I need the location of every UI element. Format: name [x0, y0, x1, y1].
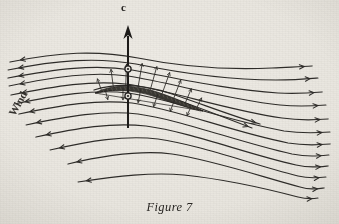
streamline-diagram — [0, 0, 339, 224]
pressure-arrow-upper — [150, 67, 156, 90]
streamline — [10, 53, 312, 69]
streamline — [78, 174, 318, 199]
center-of-pressure-dot — [127, 95, 129, 97]
streamline — [94, 85, 260, 124]
lift-vector-label: c — [121, 1, 126, 13]
streamline — [68, 153, 324, 189]
center-of-pressure-dot — [127, 68, 129, 70]
streamline — [26, 113, 329, 156]
figure-caption: Figure 7 — [0, 200, 339, 215]
streamline — [50, 138, 326, 178]
streamline — [96, 90, 252, 128]
figure-canvas: c Wind Figure 7 — [0, 0, 339, 224]
pressure-arrow-upper — [138, 64, 142, 87]
streamline — [19, 102, 330, 145]
